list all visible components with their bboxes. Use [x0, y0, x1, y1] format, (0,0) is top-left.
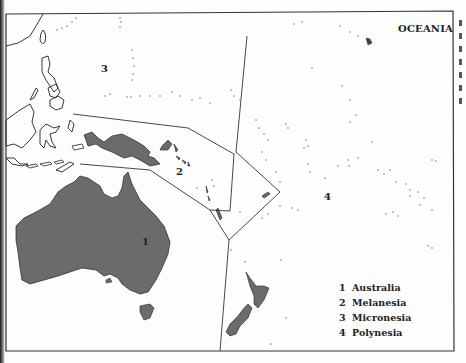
page-edge-marks — [459, 20, 465, 111]
region-label-australia: 1 — [142, 236, 149, 247]
new-caledonia — [216, 208, 222, 220]
mindanao — [50, 96, 64, 110]
region-label-melanesia: 2 — [176, 166, 183, 177]
fiji — [262, 192, 270, 198]
halmahera — [68, 120, 74, 132]
polynesia-boundary — [220, 36, 280, 351]
legend-name: Polynesia — [352, 325, 402, 340]
taiwan — [40, 30, 46, 44]
legend-item-melanesia: 2 Melanesia — [339, 295, 411, 310]
legend-number: 2 — [339, 295, 352, 310]
asia-coast — [6, 14, 43, 46]
legend-name: Melanesia — [352, 295, 406, 310]
solomon-islands — [174, 144, 190, 166]
australia — [16, 172, 170, 294]
nz-south-island — [226, 304, 252, 336]
new-guinea — [84, 132, 160, 166]
map-legend: 1 Australia 2 Melanesia 3 Micronesia 4 P… — [339, 280, 411, 340]
legend-number: 1 — [339, 280, 352, 295]
vanuatu — [206, 186, 210, 201]
legend-item-micronesia: 3 Micronesia — [339, 310, 411, 325]
legend-item-australia: 1 Australia — [339, 280, 411, 295]
region-label-micronesia: 3 — [101, 63, 108, 74]
region-label-polynesia: 4 — [324, 191, 331, 202]
legend-item-polynesia: 4 Polynesia — [339, 325, 411, 340]
borneo — [6, 104, 36, 148]
palawan — [30, 88, 38, 100]
map-title: OCEANIA — [398, 23, 453, 34]
legend-name: Australia — [352, 280, 401, 295]
lesser-sunda — [26, 160, 64, 168]
legend-number: 4 — [339, 325, 352, 340]
legend-number: 3 — [339, 310, 352, 325]
seram — [72, 144, 84, 150]
legend-name: Micronesia — [352, 310, 411, 325]
java — [6, 158, 28, 166]
new-britain — [160, 140, 172, 150]
nz-north-island — [246, 272, 269, 308]
sulawesi — [40, 124, 60, 148]
kangaroo-island — [106, 278, 112, 283]
tasmania — [140, 304, 154, 320]
hawaii — [366, 38, 372, 45]
